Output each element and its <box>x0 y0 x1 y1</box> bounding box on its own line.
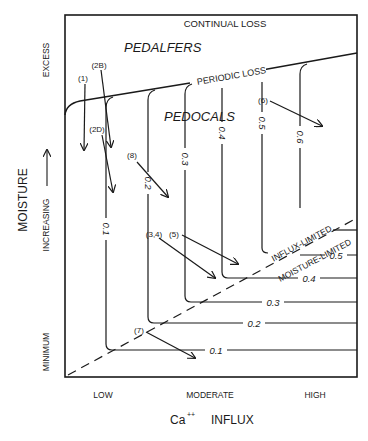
pedalfers-label: PEDALFERS <box>124 40 202 55</box>
pedocals-label: PEDOCALS <box>164 109 235 124</box>
contour-label-v-0-1: 0.1 <box>101 222 112 235</box>
contour-label-v-0-3: 0.3 <box>180 152 191 166</box>
arrow-label-3-4: (3,4) <box>146 230 163 239</box>
contour-0-2 <box>148 90 357 323</box>
arrow-label-6: (6) <box>258 96 268 105</box>
y-axis-title: MOISTURE <box>16 168 30 231</box>
pedalfer-pedocal-diagram: CONTINUAL LOSS PEDALFERS PERIODIC LOSS P… <box>0 0 368 441</box>
contour-label-v-0-4: 0.4 <box>217 126 228 139</box>
continual-loss-label: CONTINUAL LOSS <box>184 18 267 29</box>
contour-0-1 <box>106 97 357 350</box>
x-axis-title-ca: Ca <box>170 413 186 427</box>
arrow-label-7: (7) <box>134 326 144 335</box>
contour-label-v-0-6: 0.6 <box>295 130 306 144</box>
arrow-6 <box>270 101 322 126</box>
contour-label-h-0-3: 0.3 <box>266 297 280 308</box>
x-tick-low: LOW <box>93 390 112 400</box>
contour-label-v-0-2: 0.2 <box>143 176 154 190</box>
contour-0-5-vertical <box>262 82 268 253</box>
contour-label-h-0-2: 0.2 <box>247 318 261 329</box>
contour-label-h-0-5: 0.5 <box>329 250 343 261</box>
arrow-3-4 <box>159 238 215 278</box>
arrow-label-2d: (2D) <box>89 125 105 134</box>
x-axis-title-influx: INFLUX <box>211 413 254 427</box>
contour-lines <box>106 64 357 350</box>
x-tick-moderate: MODERATE <box>186 390 234 400</box>
contour-label-v-0-5: 0.5 <box>257 116 268 130</box>
contour-label-h-0-4: 0.4 <box>302 273 315 284</box>
arrow-1 <box>84 84 85 150</box>
arrow-label-8: (8) <box>127 151 137 160</box>
arrow-5 <box>182 235 238 264</box>
arrow-label-2b: (2B) <box>91 61 106 70</box>
y-tick-excess: EXCESS <box>41 42 51 77</box>
x-tick-high: HIGH <box>304 390 325 400</box>
periodic-loss-line-right <box>262 53 357 70</box>
arrow-label-5: (5) <box>169 230 179 239</box>
x-axis-title-sup: ++ <box>187 411 195 418</box>
y-axis-direction: INCREASING <box>41 199 51 252</box>
arrow-2d <box>102 135 113 192</box>
contour-label-h-0-1: 0.1 <box>209 345 222 356</box>
y-tick-minimum: MINIMUM <box>41 333 51 371</box>
arrow-7 <box>146 332 195 358</box>
arrow-label-1: (1) <box>78 74 88 83</box>
